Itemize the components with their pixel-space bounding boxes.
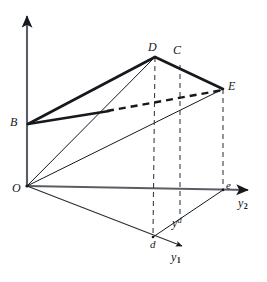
label-O: O bbox=[12, 182, 21, 194]
segment-D-E bbox=[155, 57, 223, 89]
vertex-O bbox=[25, 184, 28, 187]
label-B-text: B bbox=[10, 115, 17, 129]
thin-solid-lines bbox=[27, 57, 223, 237]
label-B: B bbox=[10, 116, 17, 128]
label-C-text: C bbox=[173, 43, 181, 57]
label-e-text: e bbox=[226, 179, 231, 191]
vertex-dots bbox=[25, 184, 224, 238]
label-y-d-superscript: d bbox=[177, 216, 182, 225]
figure-canvas bbox=[0, 0, 267, 282]
label-y2: y2 bbox=[238, 197, 248, 211]
vertex-e bbox=[222, 189, 225, 192]
label-O-text: O bbox=[12, 181, 21, 195]
label-d: d bbox=[150, 239, 156, 250]
label-y2-subscript: 2 bbox=[243, 202, 248, 211]
label-y1: y1 bbox=[171, 251, 181, 265]
label-E-text: E bbox=[228, 79, 235, 93]
label-e: e bbox=[226, 180, 231, 191]
segment-d-e bbox=[153, 190, 223, 237]
segment-break-E bbox=[107, 90, 223, 111]
label-D-text: D bbox=[148, 40, 157, 54]
label-y1-subscript: 1 bbox=[176, 256, 181, 265]
label-y-d: yd bbox=[172, 217, 182, 229]
y1-axis bbox=[27, 186, 182, 246]
bold-solid-lines bbox=[28, 57, 223, 124]
label-C: C bbox=[173, 44, 181, 56]
label-E: E bbox=[228, 80, 235, 92]
bold-dashed-lines bbox=[107, 90, 223, 111]
y2-axis bbox=[27, 186, 248, 190]
drop-line-D-d bbox=[153, 57, 155, 237]
label-D: D bbox=[148, 41, 157, 53]
label-d-text: d bbox=[150, 238, 156, 250]
geometric-figure: O B D C E e d yd y2 y1 bbox=[0, 0, 267, 282]
segment-O-E bbox=[27, 89, 223, 186]
